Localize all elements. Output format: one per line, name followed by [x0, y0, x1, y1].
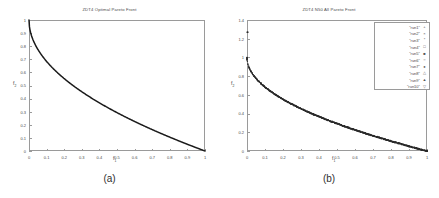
legend-item-run10[interactable]: "run10"▽ [375, 83, 429, 90]
panel-b-data-point [405, 145, 406, 146]
panel-b-data-point [260, 83, 261, 84]
panel-b-data-point [341, 125, 342, 126]
panel-b-data-point [387, 139, 388, 140]
panel-b-data-point [308, 111, 309, 112]
panel-b-data-point [297, 106, 298, 107]
panel-b-data-point [268, 89, 269, 90]
legend-item-label: "run3" [409, 38, 420, 43]
panel-b-data-point [312, 113, 313, 114]
panel-b-data-point [301, 108, 302, 109]
panel-b-data-point [418, 148, 419, 149]
panel-b-data-point [392, 142, 393, 143]
panel-b-data-point [321, 117, 322, 118]
panel-b-data-point [275, 94, 276, 95]
legend-item-marker-icon: ● [422, 65, 427, 69]
panel-b-data-point [317, 115, 318, 116]
panel-b-data-point [399, 142, 400, 143]
panel-b-data-point [389, 140, 390, 141]
legend-item-marker-icon: + [422, 25, 427, 29]
panel-b-data-point [257, 79, 258, 80]
panel-b-data-point [358, 131, 359, 132]
legend-item-run6[interactable]: "run6"○ [375, 57, 429, 64]
panel-b-data-point [254, 76, 255, 77]
panel-b-data-point [400, 143, 401, 144]
panel-b-data-point [368, 134, 369, 135]
panel-b-data-point [259, 81, 260, 82]
legend-item-run2[interactable]: "run2"× [375, 31, 429, 38]
panel-b-data-point [347, 127, 348, 128]
panel-b-data-point [360, 131, 361, 132]
panel-b-data-point [374, 135, 375, 136]
panel-b-data-point [386, 139, 387, 140]
panel-b-data-point [264, 86, 265, 87]
legend-item-label: "run9" [409, 78, 420, 83]
legend-item-run8[interactable]: "run8"△ [375, 70, 429, 77]
legend-item-label: "run2" [409, 31, 420, 36]
panel-b-data-point [384, 139, 385, 140]
panel-b-data-point [286, 100, 287, 101]
panel-b-data-point [305, 110, 306, 111]
legend-item-label: "run8" [409, 71, 420, 76]
panel-b-data-point [380, 138, 381, 139]
legend-item-label: "run10" [407, 84, 420, 89]
panel-b-data-point [378, 137, 379, 138]
legend-item-marker-icon: × [422, 32, 427, 36]
legend-item-marker-icon: □ [422, 45, 427, 49]
legend-item-run4[interactable]: "run4"□ [375, 44, 429, 51]
panel-b-data-point [344, 126, 345, 127]
legend-item-run5[interactable]: "run5"■ [375, 50, 429, 57]
panel-b-data-point [414, 147, 415, 148]
panel-b-data-point [394, 142, 395, 143]
panel-b-data-point [313, 114, 314, 115]
panel-b-data-point [355, 130, 356, 131]
panel-b-data-point [279, 97, 280, 98]
panel-b-data-point [274, 93, 275, 94]
panel-b-data-point [303, 109, 304, 110]
panel-b-data-point [262, 84, 263, 85]
panel-a-curve-layer [0, 0, 219, 198]
legend-item-run3[interactable]: "run3"* [375, 37, 429, 44]
legend-item-label: "run4" [409, 45, 420, 50]
panel-b-data-point [330, 121, 331, 122]
legend-item-run7[interactable]: "run7"● [375, 64, 429, 71]
panel-b: ZDT4 N50 All Pareto Front f2 f1 00.20.40… [219, 0, 439, 198]
panel-b-data-point [256, 78, 257, 79]
panel-b-data-point [402, 144, 403, 145]
panel-b-data-point [271, 91, 272, 92]
panel-b-data-point [426, 150, 427, 151]
panel-b-data-point [247, 60, 248, 61]
panel-b-legend: "run1"+"run2"×"run3"*"run4"□"run5"■"run6… [374, 22, 430, 90]
panel-b-data-point [396, 142, 397, 143]
panel-b-data-point [362, 132, 363, 133]
panel-b-data-point [353, 129, 354, 130]
panel-b-data-point [293, 104, 294, 105]
legend-item-marker-icon: ■ [422, 52, 427, 56]
panel-b-data-point [338, 123, 339, 124]
panel-b-data-point [346, 126, 347, 127]
panel-b-data-point [288, 101, 289, 102]
panel-b-data-point [246, 58, 247, 59]
panel-b-data-point [370, 135, 371, 136]
legend-item-marker-icon: △ [422, 71, 427, 75]
panel-b-data-point [382, 137, 383, 138]
panel-b-data-point [367, 133, 368, 134]
panel-b-data-point [322, 117, 323, 118]
panel-b-data-point [250, 69, 251, 70]
legend-item-label: "run6" [409, 58, 420, 63]
legend-item-run1[interactable]: "run1"+ [375, 24, 429, 31]
legend-item-run9[interactable]: "run9"▲ [375, 77, 429, 84]
panel-b-data-point [318, 115, 319, 116]
panel-b-data-point [409, 146, 410, 147]
panel-b-data-point [315, 114, 316, 115]
panel-b-outlier-point [247, 31, 249, 33]
panel-b-data-point [289, 103, 290, 104]
legend-item-marker-icon: ▽ [422, 85, 427, 89]
panel-b-caption: (b) [219, 173, 439, 184]
legend-item-marker-icon: ▲ [422, 78, 427, 82]
panel-a-caption: (a) [0, 173, 219, 184]
panel-b-data-point [250, 70, 251, 71]
panel-b-data-point [365, 133, 366, 134]
panel-b-data-point [351, 128, 352, 129]
panel-b-data-point [376, 137, 377, 138]
panel-b-data-point [284, 100, 285, 101]
